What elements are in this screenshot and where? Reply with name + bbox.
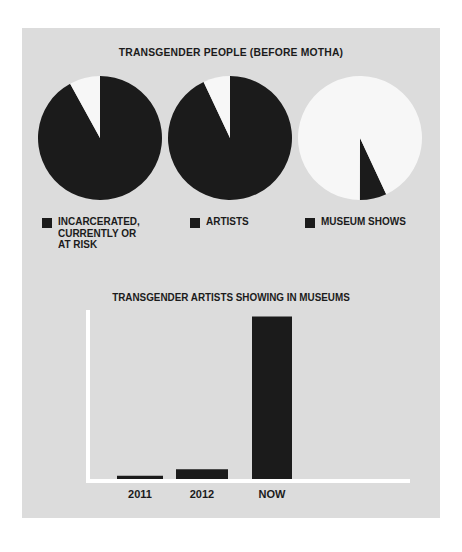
legend-swatch-icon <box>42 218 52 228</box>
x-tick-label: NOW <box>259 488 287 500</box>
x-tick-label: 2011 <box>128 488 152 500</box>
bar-chart-plot: 20112012NOW <box>52 308 432 518</box>
pie-chart-row <box>22 75 440 207</box>
pie-chart-artists <box>167 75 293 201</box>
bar-chart-title: TRANSGENDER ARTISTS SHOWING IN MUSEUMS <box>35 291 428 303</box>
x-tick-label: 2012 <box>190 488 214 500</box>
pie-chart-museum-shows <box>297 75 423 201</box>
bar-now <box>252 317 292 480</box>
pie-legend-row: INCARCERATED, CURRENTLY OR AT RISK ARTIS… <box>22 216 440 276</box>
legend-swatch-icon <box>305 218 315 228</box>
legend-label: ARTISTS <box>206 216 249 228</box>
pies-chart-title: TRANSGENDER PEOPLE (BEFORE MOTHA) <box>35 46 428 58</box>
legend-label: INCARCERATED, CURRENTLY OR AT RISK <box>58 216 140 251</box>
bar-2012 <box>176 469 228 479</box>
bar-2011 <box>117 476 163 479</box>
legend-item-artists: ARTISTS <box>190 216 310 228</box>
legend-item-museum-shows: MUSEUM SHOWS <box>305 216 440 228</box>
legend-item-incarcerated: INCARCERATED, CURRENTLY OR AT RISK <box>42 216 167 251</box>
legend-swatch-icon <box>190 218 200 228</box>
poster-panel: TRANSGENDER PEOPLE (BEFORE MOTHA) INCARC… <box>22 28 440 518</box>
legend-label: MUSEUM SHOWS <box>321 216 406 228</box>
pie-chart-incarcerated <box>37 75 163 201</box>
